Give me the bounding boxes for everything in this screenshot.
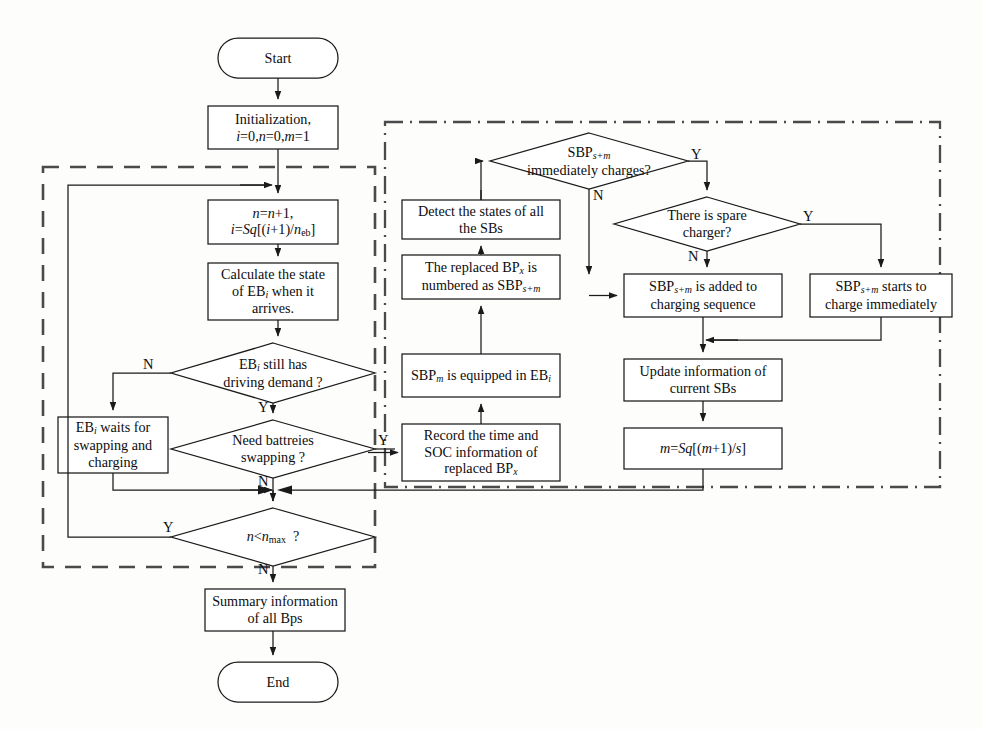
charge-immediately-box-shape xyxy=(810,274,952,317)
driving-demand-diamond-shape xyxy=(171,343,375,403)
start-terminator-shape xyxy=(218,38,338,78)
spare-charger-diamond-shape xyxy=(614,197,800,251)
edge-waits-to-merge xyxy=(113,473,268,490)
added-to-queue-box-shape xyxy=(624,274,782,317)
calculate-state-box-shape xyxy=(208,263,338,320)
increment-box-shape xyxy=(208,200,338,244)
n-less-nmax-diamond-shape xyxy=(171,508,375,566)
merge-marker-left xyxy=(258,486,273,495)
flowchart-canvas: Start Initialization, i=0,n=0,m=1 n=n+1,… xyxy=(0,0,983,729)
replaced-numbered-box-shape xyxy=(402,255,560,299)
edge-charge-immediately-to-update-join xyxy=(710,317,881,340)
m-update-box-shape xyxy=(624,428,782,469)
detect-states-box-shape xyxy=(402,200,560,239)
update-info-box-shape xyxy=(624,359,782,401)
flowchart-shapes-layer xyxy=(0,0,983,729)
immediately-charges-diamond-shape xyxy=(490,133,688,189)
sbp-equipped-box-shape xyxy=(402,354,560,397)
waits-box-shape xyxy=(58,417,168,473)
record-time-box-shape xyxy=(402,424,560,481)
edge-driving-demand-no-to-waits xyxy=(113,373,171,410)
need-swapping-diamond-shape xyxy=(171,420,375,478)
end-terminator-shape xyxy=(218,662,338,702)
initialization-box-shape xyxy=(208,106,338,149)
summary-box-shape xyxy=(205,589,345,631)
edge-spare-charger-yes-to-immediate xyxy=(800,224,881,267)
edge-immediately-charges-yes-to-spare xyxy=(688,161,707,190)
